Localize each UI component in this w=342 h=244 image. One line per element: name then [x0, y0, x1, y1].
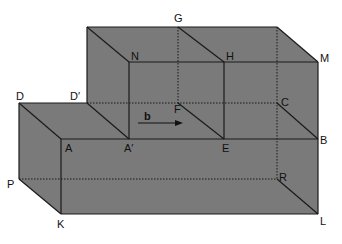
label-E: E — [222, 142, 229, 154]
label-C: C — [281, 96, 289, 108]
label-A-prime: A′ — [124, 142, 133, 154]
label-A: A — [65, 142, 73, 154]
label-L: L — [320, 215, 326, 227]
label-N: N — [131, 50, 139, 62]
label-F: F — [174, 103, 181, 115]
cuboid-diagram: G N H M D D′ F C A A′ E B P R K L b — [0, 0, 342, 244]
label-R: R — [279, 171, 287, 183]
label-K: K — [57, 218, 65, 230]
label-D: D — [16, 90, 24, 102]
solid-faces — [19, 27, 318, 214]
label-M: M — [320, 52, 329, 64]
label-G: G — [174, 12, 183, 24]
label-H: H — [226, 50, 234, 62]
label-B: B — [320, 134, 327, 146]
label-vector-b: b — [144, 110, 151, 122]
label-D-prime: D′ — [70, 90, 80, 102]
label-P: P — [7, 178, 14, 190]
